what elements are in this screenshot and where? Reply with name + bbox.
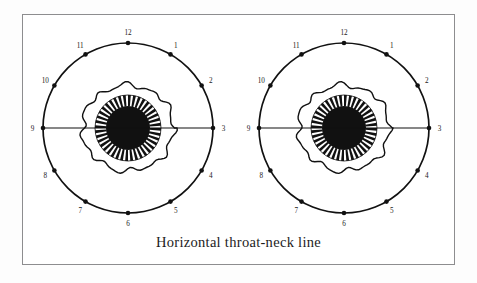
clock-marker-label-7: 7: [294, 207, 298, 215]
clock-marker-dot-9: [257, 126, 262, 131]
clock-marker-label-11: 11: [77, 42, 84, 50]
clock-marker-dot-7: [83, 199, 88, 204]
clock-marker-dot-5: [168, 199, 173, 204]
clock-marker-dot-5: [384, 199, 389, 204]
clock-marker-label-9: 9: [247, 125, 251, 133]
clock-marker-label-1: 1: [390, 42, 394, 50]
clock-marker-dot-2: [199, 83, 204, 88]
iris-spoke: [341, 149, 344, 161]
iris-spoke: [95, 120, 107, 125]
clock-marker-dot-11: [299, 52, 304, 57]
clock-marker-dot-3: [211, 126, 216, 131]
clock-marker-dot-4: [415, 168, 420, 173]
iris-spoke: [95, 130, 107, 134]
clock-marker-label-3: 3: [438, 125, 442, 133]
clock-marker-label-5: 5: [174, 207, 178, 215]
clock-marker-label-12: 12: [124, 29, 132, 37]
clock-marker-dot-3: [427, 126, 432, 131]
clock-marker-dot-8: [268, 168, 273, 173]
iris-spoke: [311, 120, 323, 125]
iris-spoke: [123, 95, 127, 107]
iris-spoke: [344, 95, 347, 107]
clock-marker-dot-8: [52, 168, 57, 173]
iris-spoke: [346, 149, 350, 161]
clock-marker-dot-6: [126, 211, 131, 216]
clock-marker-dot-12: [342, 41, 347, 46]
clock-marker-label-12: 12: [340, 29, 348, 37]
clock-marker-dot-10: [52, 83, 57, 88]
clock-marker-dot-7: [299, 199, 304, 204]
clock-marker-dot-11: [83, 52, 88, 57]
clock-marker-label-2: 2: [425, 77, 429, 85]
clock-marker-dot-10: [268, 83, 273, 88]
iris-spoke: [347, 95, 352, 107]
iris-spoke: [128, 95, 131, 107]
clock-marker-dot-1: [384, 52, 389, 57]
clock-marker-label-9: 9: [31, 125, 35, 133]
iris-spoke: [365, 131, 377, 136]
clock-marker-label-4: 4: [209, 172, 213, 180]
clock-marker-dot-2: [415, 83, 420, 88]
iris-spoke: [130, 149, 134, 161]
figure-caption: Horizontal throat-neck line: [0, 234, 477, 251]
clock-marker-label-1: 1: [174, 42, 178, 50]
clock-marker-label-2: 2: [209, 77, 213, 85]
clock-marker-label-8: 8: [259, 172, 263, 180]
clock-marker-label-8: 8: [43, 172, 47, 180]
clock-marker-label-10: 10: [258, 77, 266, 85]
clock-marker-label-11: 11: [293, 42, 300, 50]
clock-marker-dot-6: [342, 211, 347, 216]
iris-spoke: [149, 131, 161, 136]
iris-spoke: [131, 95, 136, 107]
figure-root: 121234567891011121234567891011 Horizonta…: [0, 0, 477, 283]
clock-marker-label-6: 6: [342, 220, 346, 228]
clock-marker-label-6: 6: [126, 220, 130, 228]
iris-spoke: [336, 149, 341, 161]
clock-marker-dot-4: [199, 168, 204, 173]
clock-marker-dot-12: [126, 41, 131, 46]
clock-marker-label-4: 4: [425, 172, 429, 180]
clock-marker-dot-9: [41, 126, 46, 131]
clock-marker-dot-1: [168, 52, 173, 57]
clock-marker-label-10: 10: [42, 77, 50, 85]
clock-marker-label-7: 7: [78, 207, 82, 215]
iris-spoke: [365, 123, 377, 127]
iris-spoke: [120, 149, 125, 161]
right-eye-clock-diagram: 121234567891011: [247, 29, 442, 228]
clock-marker-label-5: 5: [390, 207, 394, 215]
iris-spoke: [149, 123, 161, 127]
iris-spoke: [311, 130, 323, 134]
left-eye-clock-diagram: 121234567891011: [31, 29, 226, 228]
clock-marker-label-3: 3: [222, 125, 226, 133]
iris-spoke: [339, 95, 343, 107]
iris-spoke: [125, 149, 128, 161]
